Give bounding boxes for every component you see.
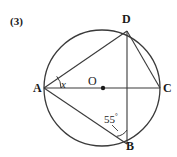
- angle-55-leader: [112, 125, 118, 131]
- point-label-d: D: [122, 13, 131, 25]
- center-point-dot: [101, 86, 105, 90]
- angle-x-label: x: [61, 78, 66, 90]
- angle-55-label: 55°: [104, 113, 118, 125]
- chord-ad: [44, 31, 127, 88]
- point-label-a: A: [33, 82, 42, 94]
- angle-arc-at-b: [117, 130, 127, 136]
- angle-55-value: 55: [104, 113, 115, 125]
- point-label-c: C: [163, 82, 172, 94]
- point-label-b: B: [126, 140, 134, 152]
- degree-symbol-icon: °: [115, 112, 118, 120]
- center-label-o: O: [88, 75, 97, 87]
- figure-root: (3) A B C D O x 55°: [0, 0, 177, 157]
- chord-dc: [127, 31, 160, 88]
